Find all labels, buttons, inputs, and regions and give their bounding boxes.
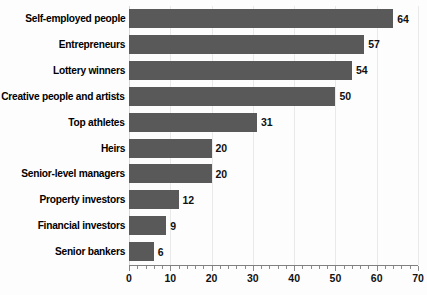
bar-value-label: 54 (356, 64, 367, 76)
tick-38 (286, 266, 287, 269)
category-label: Creative people and artists (1, 87, 125, 106)
category-label: Senior-level managers (22, 164, 126, 183)
bar[interactable] (129, 216, 166, 235)
bar-value-label: 64 (397, 13, 408, 25)
tick-64 (393, 266, 394, 269)
bar-row: 50 (129, 87, 418, 106)
bar-row: 64 (129, 9, 418, 28)
tick-48 (327, 266, 328, 269)
bar-value-label: 6 (158, 246, 164, 258)
bar-row: 9 (129, 216, 418, 235)
tick-36 (278, 266, 279, 269)
x-axis-tick-labels: 010203040506070 (129, 272, 418, 288)
bar-row: 57 (129, 35, 418, 54)
tick-58 (368, 266, 369, 269)
tick-54 (352, 266, 353, 269)
tick-24 (228, 266, 229, 269)
bar-value-label: 12 (183, 194, 194, 206)
tick-30 (253, 266, 254, 271)
tick-62 (385, 266, 386, 269)
bar-row: 6 (129, 242, 418, 261)
bar-row: 12 (129, 190, 418, 209)
category-label: Self-employed people (25, 9, 125, 28)
category-label: Lottery winners (53, 61, 125, 80)
bar[interactable] (129, 242, 154, 261)
tick-18 (203, 266, 204, 269)
tick-14 (187, 266, 188, 269)
tick-60 (377, 266, 378, 271)
bar[interactable] (129, 9, 393, 28)
bar[interactable] (129, 164, 212, 183)
bar-series: 645754503120201296 (129, 6, 418, 265)
x-tick-label: 20 (206, 272, 218, 284)
tick-12 (179, 266, 180, 269)
x-tick-label: 0 (126, 272, 132, 284)
bar[interactable] (129, 190, 179, 209)
category-axis-labels: Self-employed peopleEntrepreneursLottery… (0, 6, 125, 265)
bar-chart: Self-employed peopleEntrepreneursLottery… (0, 0, 427, 295)
tick-22 (220, 266, 221, 269)
tick-66 (401, 266, 402, 269)
tick-28 (245, 266, 246, 269)
category-label: Heirs (101, 139, 125, 158)
gridline-70 (418, 6, 419, 265)
x-tick-label: 30 (247, 272, 259, 284)
category-label: Senior bankers (55, 242, 125, 261)
bar-row: 54 (129, 61, 418, 80)
x-tick-label: 10 (164, 272, 176, 284)
bar-row: 31 (129, 113, 418, 132)
category-label: Top athletes (69, 113, 125, 132)
bar[interactable] (129, 35, 364, 54)
tick-0 (129, 266, 130, 271)
bar-row: 20 (129, 164, 418, 183)
x-tick-label: 50 (330, 272, 342, 284)
tick-32 (261, 266, 262, 269)
bar-value-label: 20 (216, 168, 227, 180)
tick-42 (302, 266, 303, 269)
tick-6 (154, 266, 155, 269)
plot-area: 645754503120201296 (129, 6, 418, 265)
category-label: Property investors (39, 190, 125, 209)
tick-8 (162, 266, 163, 269)
x-tick-label: 70 (412, 272, 424, 284)
tick-16 (195, 266, 196, 269)
tick-44 (311, 266, 312, 269)
bar[interactable] (129, 113, 257, 132)
category-label: Financial investors (37, 216, 125, 235)
x-tick-label: 60 (371, 272, 383, 284)
tick-26 (236, 266, 237, 269)
category-label: Entrepreneurs (59, 35, 125, 54)
tick-56 (360, 266, 361, 269)
bar[interactable] (129, 87, 335, 106)
tick-20 (212, 266, 213, 271)
bar-value-label: 9 (170, 220, 176, 232)
tick-40 (294, 266, 295, 271)
bar-value-label: 57 (368, 38, 379, 50)
tick-2 (137, 266, 138, 269)
bar-value-label: 20 (216, 142, 227, 154)
bar[interactable] (129, 139, 212, 158)
tick-34 (269, 266, 270, 269)
tick-68 (410, 266, 411, 269)
tick-52 (344, 266, 345, 269)
tick-46 (319, 266, 320, 269)
bar-row: 20 (129, 139, 418, 158)
tick-10 (170, 266, 171, 271)
bar-value-label: 31 (261, 116, 272, 128)
tick-50 (335, 266, 336, 271)
tick-70 (418, 266, 419, 271)
x-tick-label: 40 (288, 272, 300, 284)
tick-4 (146, 266, 147, 269)
bar-value-label: 50 (339, 90, 350, 102)
bar[interactable] (129, 61, 352, 80)
